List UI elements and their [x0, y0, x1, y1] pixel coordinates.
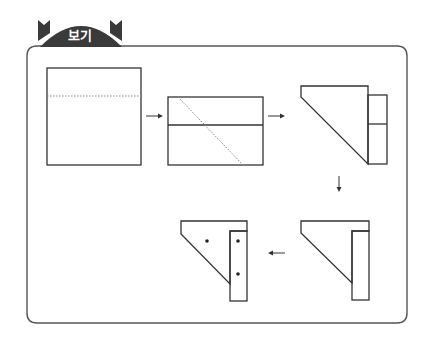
- hole-dot: [236, 239, 240, 243]
- example-tab-label: 보기: [60, 25, 100, 44]
- left-flag-icon: [38, 20, 50, 41]
- step-4-folded: [301, 221, 369, 300]
- arrow-right-2: [268, 114, 285, 119]
- hole-dot: [205, 239, 209, 243]
- arrow-down: [337, 176, 342, 192]
- diagram-canvas: [0, 0, 432, 342]
- step-3-folded: [301, 86, 387, 164]
- step-5-punched: [181, 221, 247, 301]
- arrow-right-1: [146, 114, 163, 119]
- right-flag-icon: [110, 20, 122, 41]
- hole-dot: [236, 272, 240, 276]
- step-1-square: [47, 68, 141, 165]
- arrow-left: [268, 251, 285, 256]
- step-2-rectangle: [168, 97, 263, 165]
